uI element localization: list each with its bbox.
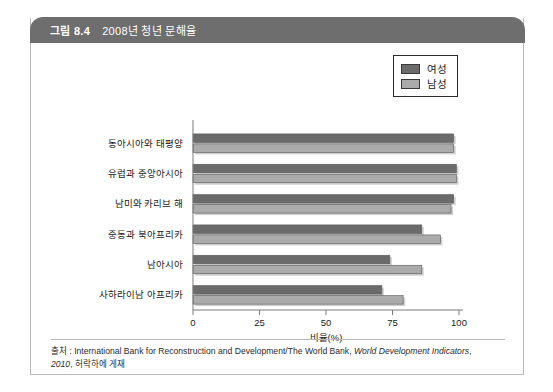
bar-남성-4 (193, 265, 422, 274)
bar-남성-3 (193, 235, 440, 244)
legend-label-male: 남성 (427, 76, 447, 91)
source-title-italic: World Development Indicators (354, 346, 469, 356)
legend-swatch-male (401, 79, 420, 89)
bar-여성-4 (193, 255, 390, 264)
x-tick-label: 50 (321, 317, 332, 328)
bar-남성-0 (193, 144, 454, 153)
source-divider (51, 339, 505, 340)
figure-title-bar: 그림 8.4 2008년 청년 문해율 (30, 17, 525, 43)
x-tick-label: 100 (451, 317, 467, 328)
source-comma: , (469, 346, 471, 356)
figure-title: 2008년 청년 문해율 (102, 22, 196, 38)
bar-남성-5 (193, 296, 403, 305)
source-permission: , 허락하에 게재 (70, 359, 125, 369)
bar-남성-1 (193, 174, 456, 183)
bar-여성-2 (193, 195, 454, 204)
x-tick-label: 0 (190, 317, 195, 328)
bar-남성-2 (193, 205, 451, 214)
source-note: 출처 : International Bank for Reconstructi… (51, 345, 507, 372)
source-year: 2010 (51, 359, 70, 369)
bar-여성-3 (193, 225, 422, 234)
legend-item-male: 남성 (401, 76, 447, 91)
figure-container: 그림 8.4 2008년 청년 문해율 동아시아와 태평양유럽과 중앙아시아남미… (30, 18, 524, 375)
category-label: 남미와 카리브 해 (115, 198, 183, 209)
category-label: 중동과 북아프리카 (108, 229, 183, 240)
category-label: 유럽과 중앙아시아 (108, 168, 183, 179)
bar-여성-0 (193, 134, 454, 143)
source-prefix: 출처 : (51, 346, 74, 356)
x-axis-title: 비율(%) (310, 332, 343, 343)
x-tick-label: 25 (254, 317, 265, 328)
category-label: 남아시아 (147, 259, 183, 270)
category-label: 사하라이남 아프리카 (99, 289, 183, 300)
figure-number: 그림 8.4 (50, 22, 90, 38)
legend-label-female: 여성 (427, 61, 447, 76)
bar-여성-5 (193, 286, 382, 295)
chart-legend: 여성 남성 (393, 55, 458, 97)
category-label: 동아시아와 태평양 (108, 138, 183, 149)
x-tick-label: 75 (387, 317, 398, 328)
legend-item-female: 여성 (401, 61, 447, 76)
bar-여성-1 (193, 164, 456, 173)
legend-swatch-female (401, 64, 420, 74)
source-publisher: International Bank for Reconstruction an… (74, 346, 354, 356)
